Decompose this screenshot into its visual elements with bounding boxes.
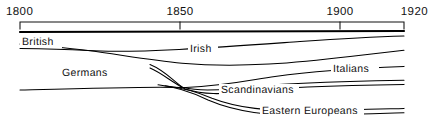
axis-bracket-line [20, 22, 404, 29]
axis-tick-labels: 1800 1850 1900 1920 [6, 6, 428, 18]
band-label-irish: Irish [190, 43, 212, 55]
top-axis [20, 22, 404, 29]
band-edge-top-outer [20, 31, 404, 32]
band-label-germans: Germans [62, 67, 108, 79]
band-label-italians: Italians [333, 63, 369, 75]
band-labels: British Irish Germans Scandinavians Ital… [22, 36, 369, 117]
axis-label-1800: 1800 [6, 6, 33, 18]
band-label-british: British [22, 36, 54, 48]
immigration-stream-chart: 1800 1850 1900 1920 [0, 0, 434, 128]
band-label-scandinavians: Scandinavians [221, 84, 294, 96]
axis-label-1900: 1900 [326, 6, 353, 18]
band-label-eastern-europeans: Eastern Europeans [262, 105, 358, 117]
axis-label-1920: 1920 [401, 6, 428, 18]
chart-canvas: 1800 1850 1900 1920 [0, 0, 434, 128]
axis-label-1850: 1850 [166, 6, 193, 18]
